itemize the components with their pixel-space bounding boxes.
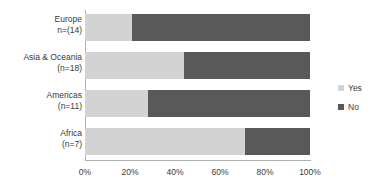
- y-axis-label-europe: Europe n=(14): [0, 14, 82, 36]
- bar-segment-no: [132, 14, 310, 41]
- x-axis-line: [85, 160, 311, 161]
- legend-item-yes: Yes: [338, 83, 362, 93]
- bar-row: [85, 90, 310, 117]
- x-axis-tick-0: 0%: [65, 167, 105, 177]
- bar-segment-no: [148, 90, 310, 117]
- stacked-bar-chart: Europe n=(14) Asia & Oceania (n=18) Amer…: [0, 0, 392, 195]
- x-axis-tick-80: 80%: [245, 167, 285, 177]
- bar-row: [85, 14, 310, 41]
- plot-area: [85, 11, 310, 160]
- y-axis-label-asia-oceania-line2: (n=18): [0, 63, 82, 74]
- y-axis-label-asia-oceania: Asia & Oceania (n=18): [0, 52, 82, 74]
- bar-row: [85, 128, 310, 155]
- y-axis-label-americas-line2: (n=11): [0, 101, 82, 112]
- y-axis-label-africa-line1: Africa: [0, 128, 82, 139]
- bar-segment-yes: [85, 14, 132, 41]
- bar-row: [85, 52, 310, 79]
- y-axis-label-europe-line2: n=(14): [0, 25, 82, 36]
- bar-segment-yes: [85, 52, 184, 79]
- bar-segment-yes: [85, 90, 148, 117]
- legend-item-no: No: [338, 102, 362, 112]
- bar-segment-yes: [85, 128, 245, 155]
- x-axis-tick-20: 20%: [110, 167, 150, 177]
- x-axis-tick-60: 60%: [200, 167, 240, 177]
- y-axis-label-africa: Africa (n=7): [0, 128, 82, 150]
- y-axis-label-africa-line2: (n=7): [0, 139, 82, 150]
- y-axis-label-europe-line1: Europe: [0, 14, 82, 25]
- bar-segment-no: [245, 128, 310, 155]
- y-axis-label-asia-oceania-line1: Asia & Oceania: [0, 52, 82, 63]
- x-axis-tick-100: 100%: [290, 167, 330, 177]
- legend-swatch-icon-no: [338, 104, 344, 110]
- bar-segment-no: [184, 52, 310, 79]
- legend-label-yes: Yes: [348, 83, 362, 93]
- legend-label-no: No: [348, 102, 359, 112]
- legend-swatch-icon-yes: [338, 85, 344, 91]
- x-axis-tick-40: 40%: [155, 167, 195, 177]
- legend: Yes No: [338, 83, 362, 121]
- y-axis-label-americas: Americas (n=11): [0, 90, 82, 112]
- y-axis-label-americas-line1: Americas: [0, 90, 82, 101]
